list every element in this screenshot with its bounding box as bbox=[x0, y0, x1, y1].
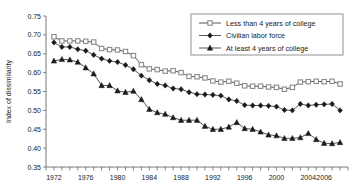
legend-label: Less than 4 years of college bbox=[226, 19, 316, 28]
data-point-square bbox=[290, 85, 294, 89]
data-point-triangle bbox=[91, 71, 96, 76]
y-tick-label: 0.55 bbox=[27, 88, 41, 95]
data-point-diamond bbox=[258, 103, 263, 108]
x-tick-label: 1976 bbox=[78, 174, 94, 181]
data-point-square bbox=[203, 76, 207, 80]
data-point-square bbox=[179, 70, 183, 74]
data-point-diamond bbox=[59, 44, 64, 49]
data-point-square bbox=[91, 40, 95, 44]
data-point-square bbox=[139, 62, 143, 66]
data-point-diamond bbox=[322, 102, 327, 107]
data-point-diamond bbox=[75, 47, 80, 52]
data-point-square bbox=[322, 79, 326, 83]
data-point-triangle bbox=[314, 137, 319, 142]
data-point-square bbox=[338, 82, 342, 86]
data-point-square bbox=[208, 21, 212, 25]
y-tick-label: 0.45 bbox=[27, 126, 41, 133]
data-point-square bbox=[298, 80, 302, 84]
data-point-diamond bbox=[218, 93, 223, 98]
data-point-triangle bbox=[155, 110, 160, 115]
data-point-square bbox=[227, 79, 231, 83]
data-point-square bbox=[68, 39, 72, 43]
data-point-square bbox=[187, 74, 191, 78]
data-point-square bbox=[219, 80, 223, 84]
data-point-square bbox=[306, 79, 310, 83]
data-point-triangle bbox=[59, 57, 64, 62]
series-line-3 bbox=[54, 59, 340, 143]
data-point-diamond bbox=[83, 48, 88, 53]
data-point-square bbox=[147, 67, 151, 71]
data-point-square bbox=[60, 39, 64, 43]
data-point-diamond bbox=[52, 40, 57, 45]
data-point-diamond bbox=[147, 77, 152, 82]
data-point-diamond bbox=[306, 103, 311, 108]
data-point-diamond bbox=[338, 108, 343, 113]
data-point-triangle bbox=[337, 140, 342, 145]
data-point-triangle bbox=[321, 140, 326, 145]
x-tick-label: 1980 bbox=[110, 174, 126, 181]
y-tick-label: 0.70 bbox=[27, 31, 41, 38]
x-tick-label: 1972 bbox=[46, 174, 62, 181]
data-point-diamond bbox=[179, 87, 184, 92]
chart-container: 0.750.700.650.600.550.500.450.400.351972… bbox=[0, 0, 354, 191]
data-point-diamond bbox=[67, 44, 72, 49]
legend: Less than 4 years of collegeCivilian lab… bbox=[191, 14, 343, 55]
data-point-square bbox=[258, 84, 262, 88]
y-axis-title: Index of dissimilarity bbox=[5, 59, 13, 123]
data-point-square bbox=[266, 85, 270, 89]
data-point-triangle bbox=[202, 123, 207, 128]
y-tick-label: 0.50 bbox=[27, 107, 41, 114]
x-tick-label: 2000 bbox=[269, 174, 285, 181]
x-tick-label: 1992 bbox=[205, 174, 221, 181]
data-point-diamond bbox=[195, 91, 200, 96]
data-point-square bbox=[84, 39, 88, 43]
dissimilarity-index-line-chart: 0.750.700.650.600.550.500.450.400.351972… bbox=[0, 0, 354, 191]
data-point-triangle bbox=[83, 65, 88, 70]
data-point-diamond bbox=[91, 52, 96, 57]
data-point-diamond bbox=[250, 103, 255, 108]
x-tick-label: 2006 bbox=[316, 174, 332, 181]
data-point-diamond bbox=[107, 58, 112, 63]
data-point-square bbox=[211, 79, 215, 83]
data-point-diamond bbox=[226, 97, 231, 102]
data-point-square bbox=[314, 79, 318, 83]
data-point-diamond bbox=[274, 104, 279, 109]
data-point-square bbox=[123, 49, 127, 53]
data-point-triangle bbox=[115, 88, 120, 93]
data-point-diamond bbox=[298, 101, 303, 106]
data-point-diamond bbox=[139, 73, 144, 78]
data-point-square bbox=[163, 69, 167, 73]
data-point-triangle bbox=[234, 120, 239, 125]
data-point-triangle bbox=[131, 88, 136, 93]
y-tick-label: 0.35 bbox=[27, 164, 41, 171]
data-point-square bbox=[242, 84, 246, 88]
data-point-square bbox=[171, 69, 175, 73]
data-point-diamond bbox=[115, 59, 120, 64]
data-point-square bbox=[107, 47, 111, 51]
data-point-diamond bbox=[290, 108, 295, 113]
data-point-diamond bbox=[131, 67, 136, 72]
data-point-triangle bbox=[306, 131, 311, 136]
data-point-triangle bbox=[226, 124, 231, 129]
data-point-diamond bbox=[203, 92, 208, 97]
data-point-square bbox=[115, 48, 119, 52]
data-point-square bbox=[274, 85, 278, 89]
legend-label: At least 4 years of college bbox=[226, 44, 308, 53]
data-point-diamond bbox=[242, 102, 247, 107]
x-tick-label: 1996 bbox=[237, 174, 253, 181]
data-point-triangle bbox=[170, 115, 175, 120]
data-point-square bbox=[282, 87, 286, 91]
series-3 bbox=[51, 57, 343, 146]
data-point-diamond bbox=[187, 90, 192, 95]
data-point-square bbox=[155, 67, 159, 71]
data-point-diamond bbox=[282, 107, 287, 112]
data-point-diamond bbox=[330, 101, 335, 106]
data-point-diamond bbox=[123, 62, 128, 67]
data-point-diamond bbox=[99, 56, 104, 61]
y-tick-label: 0.65 bbox=[27, 50, 41, 57]
data-point-triangle bbox=[298, 135, 303, 140]
y-tick-label: 0.75 bbox=[27, 13, 41, 20]
data-point-square bbox=[52, 35, 56, 39]
data-point-diamond bbox=[210, 92, 215, 97]
data-point-diamond bbox=[266, 103, 271, 108]
